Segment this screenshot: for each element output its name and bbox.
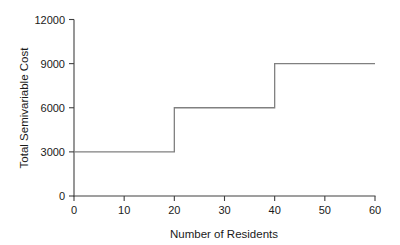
y-axis-title: Total Semivariable Cost [18, 47, 30, 169]
x-tick-label: 40 [269, 204, 281, 216]
x-tick-label: 10 [118, 204, 130, 216]
x-axis-title: Number of Residents [170, 228, 278, 240]
y-tick-label: 3000 [41, 146, 65, 158]
y-tick-label: 0 [59, 190, 65, 202]
x-tick-label: 30 [218, 204, 230, 216]
chart-figure: 030006000900012000 0102030405060 Number … [0, 0, 400, 245]
x-tick-label: 20 [168, 204, 180, 216]
chart-background [0, 0, 400, 245]
y-tick-label: 6000 [41, 102, 65, 114]
x-tick-label: 50 [319, 204, 331, 216]
x-tick-label: 0 [71, 204, 77, 216]
step-chart: 030006000900012000 0102030405060 Number … [0, 0, 400, 245]
x-tick-label: 60 [369, 204, 381, 216]
y-tick-label: 12000 [34, 14, 65, 26]
y-tick-label: 9000 [41, 58, 65, 70]
